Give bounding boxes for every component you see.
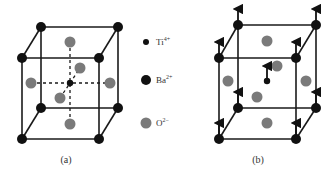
panel-b-unit-cell: (b) [214, 9, 321, 166]
titanium-atom-b [264, 78, 270, 84]
legend-ba-label: Ba2+ [156, 74, 173, 85]
legend: Ti4+ Ba2+ O2− [141, 36, 174, 129]
legend-ba-marker [141, 75, 151, 85]
legend-ti-label: Ti4+ [156, 36, 171, 47]
displacement-arrows [219, 9, 316, 136]
legend-ti-marker [143, 39, 149, 45]
panel-b-caption: (b) [252, 154, 264, 166]
panel-a-caption: (a) [60, 154, 71, 166]
panel-a-unit-cell: (a) [17, 22, 123, 166]
legend-o-label: O2− [156, 117, 170, 128]
legend-o-marker [141, 118, 152, 129]
perovskite-diagram: (a) Ti4+ Ba2+ O2− [0, 0, 335, 175]
titanium-atom-a [67, 80, 73, 86]
